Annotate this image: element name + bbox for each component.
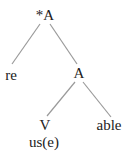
node-prefix-re: re (5, 68, 17, 83)
edge-root-re (12, 24, 40, 64)
node-suffix-able: able (97, 118, 122, 133)
node-v: V (40, 118, 51, 133)
edge-a-able (83, 82, 111, 117)
node-root-starred-a: *A (36, 8, 54, 23)
edge-root-a (50, 24, 77, 64)
tree-edges (0, 0, 129, 162)
morphology-tree-diagram: *A re A V us(e) able (0, 0, 129, 162)
edge-a-v (47, 82, 75, 116)
node-stem-use: us(e) (29, 135, 59, 150)
node-a: A (74, 66, 85, 81)
